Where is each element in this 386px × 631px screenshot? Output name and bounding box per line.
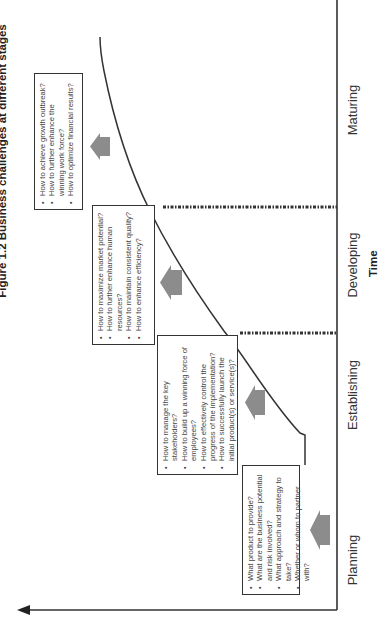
challenge-item: How to optimize financial results?: [66, 78, 75, 196]
challenge-item: How to further enhance human resources?: [105, 210, 124, 331]
stage-arrow-icon-planning: [310, 510, 330, 550]
challenge-item: How to build up a winning force of emplo…: [180, 340, 199, 461]
challenge-box-maturing: How to achieve growth outbreak? How to f…: [34, 73, 83, 210]
challenge-item: What are the business potential and risk…: [255, 470, 274, 581]
business-cycle-axis: [17, 605, 337, 615]
stage-label-maturing: Maturing: [345, 85, 360, 136]
challenge-item: How to maximize market potential?: [96, 210, 105, 331]
challenge-box-establishing: How to manage the key stakeholders? How …: [157, 335, 238, 475]
stage-arrow-icon-establishing: [245, 385, 265, 420]
challenge-box-planning: What product to provide? What are the bu…: [242, 465, 300, 595]
challenge-item: How to further enhance the winning work …: [47, 78, 66, 196]
challenge-item: How to successfully launch the initial p…: [217, 340, 236, 461]
stage-arrow-icon-maturing: [90, 133, 110, 160]
diagram-canvas: Figure 1.2 Business challenges at differ…: [0, 0, 386, 631]
challenge-item: Whether or whom to partner with?: [293, 470, 312, 581]
stage-arrow-icon-developing: [160, 265, 182, 300]
challenge-item: How to maintain consistent quality?: [124, 210, 133, 331]
stage-label-developing: Developing: [345, 232, 360, 297]
stage-label-planning: Planning: [345, 535, 360, 586]
challenge-item: How to manage the key stakeholders?: [161, 340, 180, 461]
challenge-item: How to effectively control the progress …: [199, 340, 218, 461]
challenge-item: How to achieve growth outbreak?: [38, 78, 47, 196]
axis-arrowhead-icon: [17, 605, 30, 615]
stage-label-establishing: Establishing: [345, 360, 360, 430]
challenge-item: How to enhance efficiency?: [134, 210, 143, 331]
challenge-item: What product to provide?: [246, 470, 255, 581]
challenge-box-developing: How to maximize market potential? How to…: [92, 205, 155, 345]
challenge-item: What approach and strategy to take?: [274, 470, 293, 581]
time-axis-label: Time: [367, 250, 379, 277]
